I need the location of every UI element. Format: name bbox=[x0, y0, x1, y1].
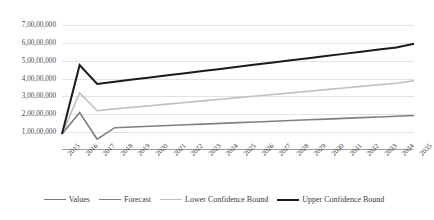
legend-item-forecast[interactable]: Forecast bbox=[99, 195, 151, 204]
series-lines bbox=[62, 16, 414, 150]
y-axis-tick-label: 1,00,00,000 bbox=[22, 128, 56, 136]
legend-item-lower-confidence-bound[interactable]: Lower Confidence Bound bbox=[160, 195, 268, 204]
plot-area bbox=[62, 16, 414, 150]
series-line-upper-confidence-bound bbox=[62, 44, 414, 134]
x-axis-tick-label: 2035 bbox=[418, 142, 434, 158]
legend-swatch bbox=[99, 199, 121, 201]
y-axis-tick-label: 7,00,00,000 bbox=[22, 21, 56, 29]
legend-label: Values bbox=[69, 195, 90, 204]
legend-swatch bbox=[44, 199, 66, 201]
y-axis-tick-label: 5,00,00,000 bbox=[22, 57, 56, 65]
y-axis-tick-label: 6,00,00,000 bbox=[22, 39, 56, 47]
y-axis-tick-label: 2,00,00,000 bbox=[22, 110, 56, 118]
legend-item-values[interactable]: Values bbox=[44, 195, 90, 204]
x-axis-tick-labels: 2015201620172018201920202021202220232024… bbox=[62, 150, 414, 190]
legend-item-upper-confidence-bound[interactable]: Upper Confidence Bound bbox=[277, 195, 384, 204]
legend-swatch bbox=[277, 199, 299, 201]
chart-legend: ValuesForecastLower Confidence BoundUppe… bbox=[0, 195, 428, 204]
legend-label: Upper Confidence Bound bbox=[302, 195, 384, 204]
y-axis-tick-label: 3,00,00,000 bbox=[22, 92, 56, 100]
legend-label: Lower Confidence Bound bbox=[185, 195, 268, 204]
y-axis-tick-label: 4,00,00,000 bbox=[22, 75, 56, 83]
series-line-forecast bbox=[97, 116, 414, 140]
series-line-lower-confidence-bound bbox=[62, 81, 414, 134]
legend-label: Forecast bbox=[124, 195, 151, 204]
legend-swatch bbox=[160, 199, 182, 201]
